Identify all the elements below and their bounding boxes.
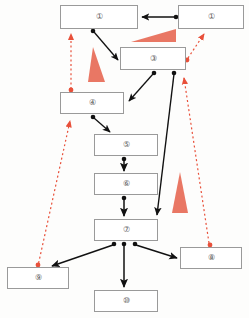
edge-n7-to-n8 — [133, 242, 177, 258]
node-box-7[interactable]: ⑦ — [94, 219, 158, 241]
node-box-5[interactable]: ⑤ — [94, 134, 158, 156]
node-label: ③ — [150, 55, 157, 63]
dashed-n8-to-n3 — [184, 78, 212, 247]
node-box-3[interactable]: ③ — [120, 47, 186, 70]
wedge-left-vertical — [88, 47, 105, 82]
edge-n3-to-n7 — [157, 71, 176, 215]
edge-n3-to-n4 — [129, 71, 156, 101]
node-label: ⑥ — [123, 180, 130, 188]
edge-n5-to-n6 — [122, 157, 127, 171]
dashed-n3-to-n1b — [185, 34, 204, 62]
edge-n7-to-n9 — [52, 242, 116, 266]
edge-n4-to-n5 — [91, 115, 110, 132]
node-label: ④ — [89, 99, 96, 107]
node-box-1a[interactable]: ① — [60, 5, 138, 29]
node-label: ⑨ — [35, 274, 42, 282]
node-label: ① — [96, 13, 103, 21]
edge-n1b-to-n1a — [142, 15, 178, 20]
node-label: ⑩ — [123, 297, 130, 305]
node-label: ① — [208, 13, 215, 21]
node-label: ⑦ — [123, 226, 130, 234]
wedge-right-vertical — [172, 172, 188, 213]
edge-n6-to-n7 — [122, 196, 127, 216]
node-box-4[interactable]: ④ — [60, 92, 124, 114]
node-box-9[interactable]: ⑨ — [7, 267, 69, 289]
node-box-6[interactable]: ⑥ — [94, 173, 158, 195]
edge-n7-to-n10 — [122, 242, 127, 287]
node-box-1b[interactable]: ① — [178, 5, 244, 29]
node-label: ⑤ — [123, 141, 130, 149]
node-box-10[interactable]: ⑩ — [94, 290, 158, 312]
wedge-top-horizontal — [131, 29, 176, 42]
node-box-8[interactable]: ⑧ — [180, 247, 242, 269]
diagram-canvas: ① ① ③ ④ ⑤ ⑥ ⑦ ⑧ ⑨ ⑩ — [0, 0, 249, 318]
node-label: ⑧ — [208, 254, 215, 262]
dashed-n4-to-n1a — [69, 34, 74, 92]
dashed-n9-to-n4 — [36, 121, 70, 267]
